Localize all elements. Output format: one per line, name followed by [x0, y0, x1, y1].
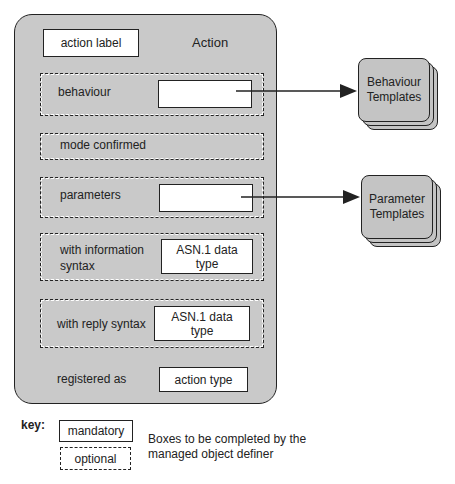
- key-mandatory-box: mandatory: [59, 420, 133, 442]
- key-label: key:: [21, 418, 45, 432]
- connector-arrows: [0, 0, 455, 484]
- arrow-to-behaviour-templates: [236, 84, 357, 98]
- key-description: Boxes to be completed by the managed obj…: [148, 432, 306, 462]
- arrow-to-parameter-templates: [241, 190, 360, 204]
- key-optional-box: optional: [60, 447, 131, 470]
